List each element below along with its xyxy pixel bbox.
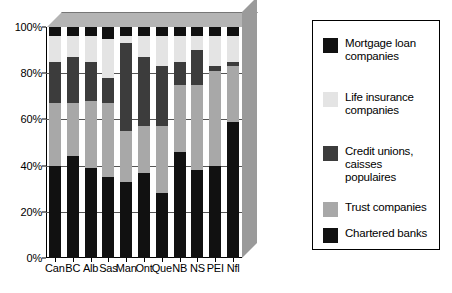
legend-item-credit[interactable]: Credit unions, caisses populaires: [323, 145, 413, 184]
bar-segment: [174, 27, 186, 36]
bar-segment: [85, 36, 97, 61]
legend-item-banks[interactable]: Chartered banks: [323, 227, 427, 243]
bar-nb: [174, 27, 186, 258]
y-axis-tick-mark: [42, 73, 46, 74]
bar-segment: [209, 71, 221, 166]
bar-segment: [85, 168, 97, 258]
legend-item-trust[interactable]: Trust companies: [323, 201, 427, 217]
bar-segment: [209, 66, 221, 71]
bar-segment: [85, 62, 97, 101]
x-axis-tick-mark: [144, 258, 145, 262]
bar-segment: [49, 36, 61, 61]
stacked-bar-chart: 0%20%40%60%80%100% CanBCAlbSasManOntQueN…: [0, 0, 452, 293]
bar-segment: [67, 36, 79, 57]
legend-item-mortgage[interactable]: Mortgage loan companies: [323, 37, 416, 63]
bar-ont: [138, 27, 150, 258]
bar-segment: [227, 27, 239, 36]
bar-segment: [49, 62, 61, 104]
bar-alb: [85, 27, 97, 258]
bar-segment: [191, 170, 203, 258]
x-axis-tick-label: NS: [190, 262, 205, 274]
x-axis-tick-mark: [126, 258, 127, 262]
bar-segment: [102, 78, 114, 103]
bar-segment: [85, 101, 97, 168]
x-axis-tick-mark: [162, 258, 163, 262]
y-axis-tick-label: 60%: [21, 113, 42, 125]
legend-item-life[interactable]: Life insurance companies: [323, 91, 414, 117]
bar-segment: [209, 36, 221, 66]
legend-swatch-life: [323, 92, 338, 107]
bar-segment: [120, 131, 132, 182]
bar-segment: [191, 36, 203, 50]
bar-segment: [67, 27, 79, 36]
bar-segment: [227, 122, 239, 258]
legend-label: Credit unions, caisses populaires: [345, 145, 413, 184]
bar-segment: [120, 182, 132, 258]
x-axis-tick-label: Ont: [135, 262, 152, 274]
y-axis-tick-mark: [42, 119, 46, 120]
y-axis-tick-label: 100%: [15, 21, 42, 33]
y-axis-tick-mark: [42, 258, 46, 259]
bar-sas: [102, 27, 114, 258]
x-axis-tick-mark: [197, 258, 198, 262]
x-axis-tick-mark: [55, 258, 56, 262]
y-axis-tick-mark: [42, 165, 46, 166]
bar-segment: [85, 27, 97, 36]
x-axis-tick-mark: [233, 258, 234, 262]
bar-segment: [174, 36, 186, 61]
bar-segment: [156, 27, 168, 36]
x-axis-tick-label: Nfl: [227, 262, 240, 274]
x-axis-tick-mark: [91, 258, 92, 262]
bar-segment: [227, 62, 239, 67]
legend-swatch-trust: [323, 202, 338, 217]
y-axis-tick-mark: [42, 211, 46, 212]
y-axis-tick-label: 40%: [21, 160, 42, 172]
bar-segment: [120, 43, 132, 131]
x-axis-tick-label: NB: [172, 262, 187, 274]
legend-label: Life insurance companies: [345, 91, 414, 117]
bar-segment: [49, 27, 61, 36]
bar-segment: [102, 177, 114, 258]
x-axis-tick-mark: [215, 258, 216, 262]
bar-segment: [102, 39, 114, 78]
bar-segment: [49, 166, 61, 258]
bar-segment: [138, 57, 150, 126]
bar-segment: [156, 36, 168, 66]
bar-segment: [227, 36, 239, 61]
bar-pei: [209, 27, 221, 258]
x-axis-tick-mark: [73, 258, 74, 262]
bar-segment: [67, 156, 79, 258]
bar-segment: [191, 85, 203, 170]
bar-segment: [102, 27, 114, 39]
bar-segment: [102, 103, 114, 177]
bar-segment: [120, 36, 132, 43]
bar-segment: [138, 173, 150, 258]
bar-nfl: [227, 27, 239, 258]
bar-segment: [191, 50, 203, 85]
chart-legend: Mortgage loan companiesLife insurance co…: [312, 20, 440, 250]
bar-segment: [156, 66, 168, 126]
bar-segment: [67, 57, 79, 103]
x-axis-tick-label: BC: [65, 262, 80, 274]
y-axis-tick-label: 0%: [27, 252, 43, 264]
bar-segment: [138, 126, 150, 172]
bar-man: [120, 27, 132, 258]
x-axis-tick-mark: [180, 258, 181, 262]
bar-segment: [227, 66, 239, 121]
x-axis-tick-mark: [108, 258, 109, 262]
bar-can: [49, 27, 61, 258]
bar-segment: [156, 193, 168, 258]
bar-segment: [191, 27, 203, 36]
y-axis-tick-mark: [42, 27, 46, 28]
legend-label: Mortgage loan companies: [345, 37, 416, 63]
y-axis: 0%20%40%60%80%100%: [0, 0, 42, 293]
x-axis-tick-label: Man: [116, 262, 137, 274]
legend-swatch-banks: [323, 228, 338, 243]
x-axis-tick-label: Que: [152, 262, 172, 274]
legend-label: Trust companies: [345, 201, 427, 214]
bar-bc: [67, 27, 79, 258]
bar-segment: [174, 85, 186, 152]
x-axis-tick-label: PEI: [207, 262, 224, 274]
bar-segment: [138, 36, 150, 57]
chart-3d-top-face: [46, 12, 258, 28]
